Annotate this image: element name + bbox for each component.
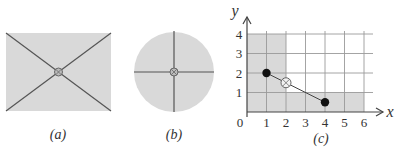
x-tick: 1 <box>263 115 270 130</box>
y-tick: 2 <box>236 66 243 81</box>
x-tick: 6 <box>361 115 368 130</box>
y-axis-label: y <box>229 2 239 20</box>
point-filled <box>262 69 270 77</box>
caption-a: (a) <box>50 127 67 143</box>
centroid-icon <box>281 78 291 88</box>
x-axis-label: x <box>385 103 393 120</box>
x-tick: 2 <box>283 115 290 130</box>
x-tick: 4 <box>322 115 329 130</box>
figure-b: (b) <box>134 31 214 143</box>
centroid-icon <box>55 68 63 76</box>
figure-c: x y 0 1 2 3 4 5 6 1 2 3 4 (c) <box>229 2 393 147</box>
centroid-icon <box>170 68 178 76</box>
caption-b: (b) <box>166 127 183 143</box>
caption-c: (c) <box>313 131 329 147</box>
point-filled <box>321 98 329 106</box>
x-tick: 0 <box>237 115 244 130</box>
y-tick: 4 <box>236 27 243 42</box>
y-tick: 1 <box>236 85 243 100</box>
figure-a: (a) <box>6 33 111 143</box>
x-tick: 5 <box>341 115 348 130</box>
x-tick: 3 <box>302 115 309 130</box>
y-tick: 3 <box>236 46 243 61</box>
figure-canvas: (a) (b) <box>0 0 400 152</box>
